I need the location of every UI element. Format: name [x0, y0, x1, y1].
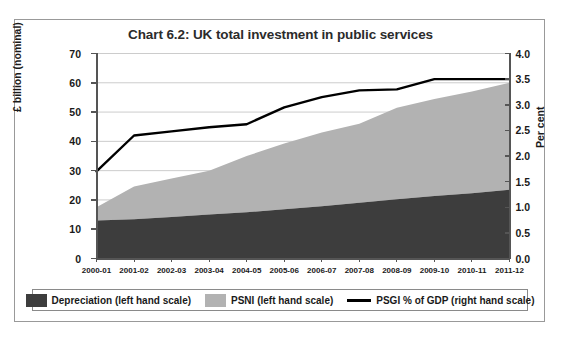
y-axis-label-left: 60	[47, 78, 81, 88]
x-tick	[134, 258, 135, 262]
chart-frame: Chart 6.2: UK total investment in public…	[14, 19, 545, 322]
legend-label: PSGI % of GDP (right hand scale)	[376, 295, 534, 306]
y-axis-title-left: £ billion (nominal)	[11, 22, 23, 112]
y-axis-label-left: 40	[47, 136, 81, 146]
y-tick-left	[91, 199, 96, 201]
chart-svg	[83, 53, 510, 259]
x-tick	[509, 258, 510, 262]
x-tick	[359, 258, 360, 262]
chart-title: Chart 6.2: UK total investment in public…	[15, 27, 546, 42]
y-tick-left	[91, 82, 96, 84]
y-axis-label-right: 2.5	[516, 125, 550, 135]
y-axis-label-right: 2.0	[516, 151, 550, 161]
legend-label: Depreciation (left hand scale)	[52, 295, 191, 306]
y-tick-right	[505, 130, 510, 132]
x-axis-label: 2011-12	[487, 266, 533, 275]
y-axis-label-right: 1.0	[516, 202, 550, 212]
x-tick	[284, 258, 285, 262]
x-tick	[96, 258, 97, 262]
legend-color-swatch	[205, 294, 226, 307]
y-tick-right	[505, 53, 510, 55]
x-axis-line	[96, 258, 510, 260]
y-axis-label-left: 30	[47, 166, 81, 176]
y-tick-left	[91, 170, 96, 172]
legend-label: PSNI (left hand scale)	[231, 295, 333, 306]
y-tick-right	[505, 232, 510, 234]
page-root: Chart 6.2: UK total investment in public…	[0, 0, 561, 344]
legend-color-swatch	[26, 294, 47, 307]
y-tick-right	[505, 78, 510, 80]
chart-legend: Depreciation (left hand scale)PSNI (left…	[32, 289, 528, 311]
legend-line-marker	[347, 299, 371, 302]
x-tick	[434, 258, 435, 262]
y-axis-label-right: 0.5	[516, 228, 550, 238]
y-tick-left	[91, 228, 96, 230]
y-axis-label-right: 1.5	[516, 177, 550, 187]
x-tick	[321, 258, 322, 262]
legend-item[interactable]: PSNI (left hand scale)	[198, 294, 340, 307]
y-axis-label-left: 50	[47, 107, 81, 117]
x-tick	[396, 258, 397, 262]
y-tick-right	[505, 104, 510, 106]
y-axis-label-right: 4.0	[516, 49, 550, 59]
y-tick-left	[91, 111, 96, 113]
y-tick-right	[505, 155, 510, 157]
y-axis-label-left: 70	[47, 49, 81, 59]
plot-canvas	[83, 53, 510, 259]
legend-item[interactable]: Depreciation (left hand scale)	[19, 294, 198, 307]
y-tick-left	[91, 141, 96, 143]
y-tick-right	[505, 181, 510, 183]
y-axis-label-right: 3.0	[516, 100, 550, 110]
x-tick	[246, 258, 247, 262]
x-tick	[471, 258, 472, 262]
x-tick	[209, 258, 210, 262]
y-axis-label-right: 3.5	[516, 74, 550, 84]
y-axis-label-right: 0.0	[516, 254, 550, 264]
x-tick	[171, 258, 172, 262]
legend-item[interactable]: PSGI % of GDP (right hand scale)	[340, 295, 541, 306]
y-axis-label-left: 10	[47, 224, 81, 234]
y-tick-left	[91, 53, 96, 55]
y-axis-label-left: 20	[47, 195, 81, 205]
plot-area: 010203040506070 0.00.51.01.52.02.53.03.5…	[69, 53, 496, 259]
y-axis-left-line	[96, 53, 98, 259]
y-axis-label-left: 0	[47, 254, 81, 264]
y-tick-right	[505, 207, 510, 209]
